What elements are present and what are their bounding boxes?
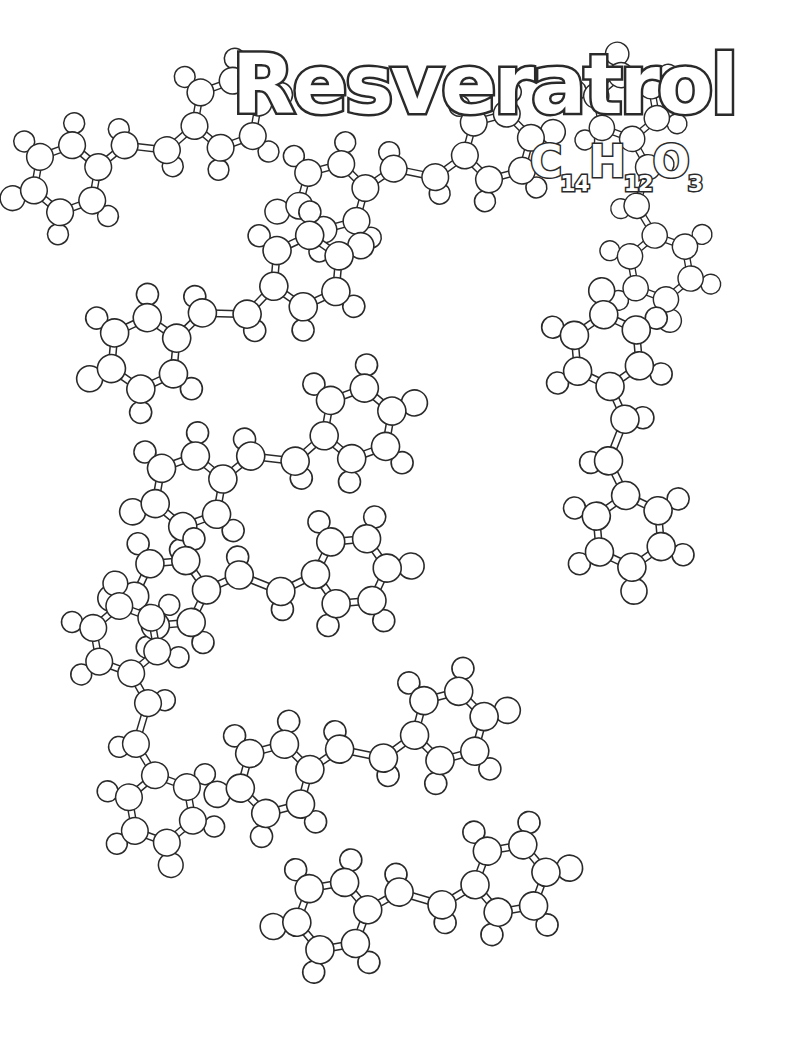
formula-symbol-h: H [589,136,624,187]
resveratrol-molecule [92,502,430,662]
page-title: Resveratrol [232,44,735,126]
formula-count-o: 3 [688,171,702,196]
resveratrol-molecule [54,560,232,889]
formula-symbol-c: C [530,136,560,187]
formula-count-c: 14 [560,171,589,196]
formula-symbol-o: O [652,136,687,187]
resveratrol-molecule [248,804,594,991]
resveratrol-molecule [187,646,538,858]
resveratrol-molecule [97,339,450,575]
formula-count-h: 12 [624,171,653,196]
chemical-formula: C14H12O3 [530,140,702,195]
